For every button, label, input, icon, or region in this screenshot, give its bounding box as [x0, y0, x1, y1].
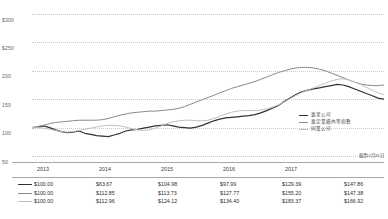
legend-swatch	[299, 129, 308, 130]
y-axis-tick-label: $300	[2, 17, 14, 23]
x-axis-tick-label: 2015	[136, 166, 198, 172]
table-row-swatch	[18, 184, 32, 185]
table-cell: $100.00	[34, 180, 78, 189]
table-cell: $112.85	[96, 189, 140, 198]
table-cell: $134.40	[220, 197, 264, 206]
table-cell: $124.12	[158, 197, 202, 206]
table-cell: $63.67	[96, 180, 140, 189]
table-cell: $104.98	[158, 180, 202, 189]
legend-swatch	[299, 122, 308, 123]
table-cell: $129.39	[282, 180, 326, 189]
x-axis-tick-label: 2014	[74, 166, 136, 172]
plot-area: $300$25020015010050	[32, 14, 384, 156]
table-cell: $100.00	[34, 197, 78, 206]
x-axis: 20132014201520162017	[0, 162, 388, 178]
y-axis-tick-label: 150	[2, 102, 11, 108]
legend-label: 同業公司	[311, 126, 331, 132]
table-cell: $147.38	[344, 189, 388, 198]
table-cell: $113.73	[158, 189, 202, 198]
y-axis-tick-label: 200	[2, 73, 11, 79]
data-table: $100.00$63.67$104.98$97.99$129.39$147.86…	[0, 180, 388, 206]
y-axis-tick-label: 100	[2, 130, 11, 136]
chart-lines	[32, 14, 384, 156]
legend-label: 嘉里公司	[311, 112, 331, 118]
x-axis-tick-label: 2017	[260, 166, 322, 172]
table-row: $100.00$112.85$113.73$127.77$155.20$147.…	[0, 189, 388, 198]
table-cell: $112.96	[96, 197, 140, 206]
x-axis-rule-top	[12, 162, 384, 163]
table-cell: $127.77	[220, 189, 264, 198]
table-cell: $100.00	[34, 189, 78, 198]
gridline	[32, 156, 384, 157]
legend-item: 嘉里公司	[299, 112, 351, 118]
chart-legend: 嘉里公司嘉定業績內等指數同業公司	[299, 112, 351, 132]
table-row: $100.00$63.67$104.98$97.99$129.39$147.86	[0, 180, 388, 189]
table-row-swatch	[18, 193, 32, 194]
table-row: $100.00$112.96$124.12$134.40$183.37$166.…	[0, 197, 388, 206]
table-cell: $166.92	[344, 197, 388, 206]
legend-label: 嘉定業績內等指數	[311, 119, 351, 125]
legend-item: 嘉定業績內等指數	[299, 119, 351, 125]
legend-item: 同業公司	[299, 126, 351, 132]
y-axis-tick-label: $250	[2, 45, 14, 51]
table-cell: $147.86	[344, 180, 388, 189]
legend-swatch	[299, 115, 308, 116]
stock-performance-chart: $300$25020015010050 嘉里公司嘉定業績內等指數同業公司 截至1…	[0, 0, 388, 219]
x-axis-rule-bottom	[12, 177, 384, 178]
x-axis-tick-label: 2016	[198, 166, 260, 172]
x-axis-tick-label: 2013	[12, 166, 74, 172]
table-cell: $183.37	[282, 197, 326, 206]
table-cell: $97.99	[220, 180, 264, 189]
table-row-swatch	[18, 201, 32, 202]
chart-footnote: 截至11月31日	[359, 152, 384, 158]
table-cell: $155.20	[282, 189, 326, 198]
